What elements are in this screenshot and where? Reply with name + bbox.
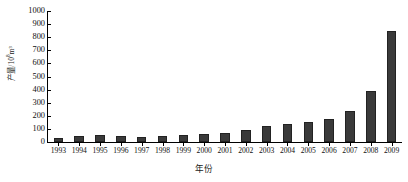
- bar: [304, 122, 314, 142]
- y-axis-tick-mark: [48, 24, 51, 25]
- y-axis-tick-mark: [48, 50, 51, 51]
- x-axis-tick-mark: [246, 143, 247, 146]
- plot-area: [48, 11, 402, 142]
- y-axis-title: 产量/108m³: [5, 32, 16, 96]
- y-axis-tick-labels: 01002003004005006007008009001000: [18, 11, 45, 142]
- bar: [74, 136, 84, 142]
- x-axis-tick-mark: [308, 143, 309, 146]
- x-axis-tick-label: 2008: [363, 146, 378, 155]
- x-axis-tick-mark: [225, 143, 226, 146]
- y-axis-tick-mark: [48, 37, 51, 38]
- x-axis-tick-label: 1999: [176, 146, 191, 155]
- x-axis-tick-label: 2007: [342, 146, 357, 155]
- x-axis-tick-label: 1993: [51, 146, 66, 155]
- y-axis-tick-mark: [48, 63, 51, 64]
- bar: [324, 119, 334, 142]
- x-axis-tick-label: 1997: [134, 146, 149, 155]
- x-axis-tick-labels: 1993199419951996199719981999200020012002…: [48, 146, 402, 158]
- bar: [137, 137, 147, 143]
- x-axis-tick-mark: [58, 143, 59, 146]
- y-axis-tick-mark: [48, 11, 51, 12]
- x-axis-tick-mark: [100, 143, 101, 146]
- y-axis-tick-label: 500: [32, 73, 45, 81]
- x-axis-tick-mark: [287, 143, 288, 146]
- x-axis-tick-label: 1994: [72, 146, 87, 155]
- bar: [158, 136, 168, 142]
- x-axis-tick-label: 2000: [197, 146, 212, 155]
- bar: [262, 126, 272, 142]
- bar: [241, 130, 251, 142]
- x-axis-tick-mark: [142, 143, 143, 146]
- x-axis-tick-mark: [267, 143, 268, 146]
- y-axis-tick-mark: [48, 103, 51, 104]
- bar: [387, 31, 397, 142]
- bar: [366, 91, 376, 142]
- y-axis-tick-label: 800: [32, 33, 45, 41]
- x-axis-tick-mark: [329, 143, 330, 146]
- y-axis-tick-label: 600: [32, 59, 45, 67]
- bar: [283, 124, 293, 142]
- y-axis-tick-mark: [48, 90, 51, 91]
- y-axis-tick-label: 0: [41, 138, 45, 146]
- x-axis-tick-mark: [204, 143, 205, 146]
- x-axis-tick-label: 2002: [238, 146, 253, 155]
- x-axis-tick-mark: [371, 143, 372, 146]
- bar: [179, 135, 189, 142]
- bar: [220, 133, 230, 142]
- y-axis-tick-label: 700: [32, 46, 45, 54]
- y-axis-tick-mark: [48, 142, 51, 143]
- x-axis-tick-label: 2001: [217, 146, 232, 155]
- bar: [116, 136, 126, 142]
- y-axis-title-base: 产量/10: [7, 57, 16, 81]
- y-axis-tick-label: 100: [32, 125, 45, 133]
- bar-chart: 产量/108m³ 0100200300400500600700800900100…: [0, 0, 408, 182]
- x-axis-tick-mark: [121, 143, 122, 146]
- y-axis-tick-mark: [48, 77, 51, 78]
- y-axis-tick-mark: [48, 129, 51, 130]
- bar: [54, 138, 64, 142]
- x-axis-tick-mark: [163, 143, 164, 146]
- x-axis-tick-mark: [350, 143, 351, 146]
- y-axis-tick-label: 1000: [28, 7, 45, 15]
- x-axis-tick-mark: [183, 143, 184, 146]
- bar: [199, 134, 209, 142]
- x-axis-tick-label: 2005: [301, 146, 316, 155]
- y-axis-tick-label: 200: [32, 112, 45, 120]
- x-axis-tick-label: 1995: [92, 146, 107, 155]
- x-axis-title: 年份: [0, 162, 408, 174]
- y-axis-title-exponent: 8: [5, 54, 11, 57]
- x-axis-tick-label: 2006: [322, 146, 337, 155]
- x-axis-tick-label: 2004: [280, 146, 295, 155]
- x-axis-tick-mark: [79, 143, 80, 146]
- y-axis-tick-label: 400: [32, 86, 45, 94]
- y-axis-tick-label: 300: [32, 99, 45, 107]
- x-axis-tick-label: 1998: [155, 146, 170, 155]
- x-axis-tick-label: 2003: [259, 146, 274, 155]
- bar: [95, 135, 105, 142]
- y-axis-tick-label: 900: [32, 20, 45, 28]
- x-axis-tick-label: 2009: [384, 146, 399, 155]
- x-axis-tick-label: 1996: [113, 146, 128, 155]
- y-axis-tick-mark: [48, 116, 51, 117]
- bar: [345, 111, 355, 142]
- y-axis-title-unit: m³: [7, 46, 16, 54]
- x-axis-tick-mark: [392, 143, 393, 146]
